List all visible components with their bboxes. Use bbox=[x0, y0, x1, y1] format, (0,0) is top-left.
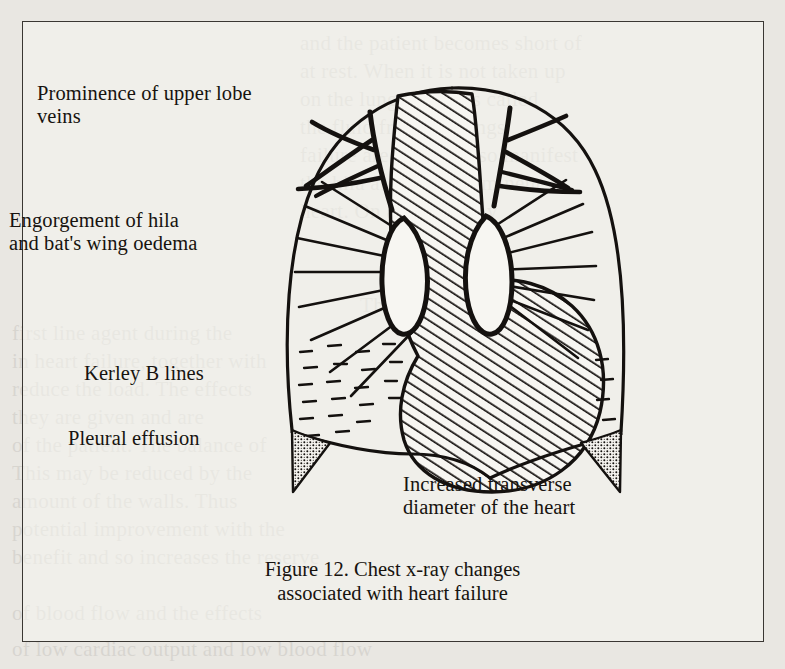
label-pleural-effusion: Pleural effusion bbox=[68, 427, 200, 450]
figure-caption: Figure 12. Chest x-ray changes associate… bbox=[0, 557, 785, 605]
label-kerley-b-lines: Kerley B lines bbox=[84, 362, 204, 385]
label-increased-transverse-diameter: Increased transverse diameter of the hea… bbox=[403, 473, 575, 519]
label-engorgement-of-hila: Engorgement of hila and bat's wing oedem… bbox=[9, 209, 198, 255]
label-prominence-of-upper-lobe-veins: Prominence of upper lobe veins bbox=[37, 82, 252, 128]
